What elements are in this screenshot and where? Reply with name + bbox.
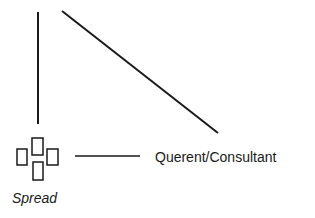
card-spread-icon <box>17 138 58 180</box>
diagonal-connector <box>62 11 218 133</box>
querent-label: Querent/Consultant <box>155 149 276 165</box>
card-left <box>17 149 27 165</box>
card-top <box>32 138 43 155</box>
spread-label: Spread <box>12 190 57 206</box>
card-right <box>47 149 58 165</box>
card-bottom <box>33 162 43 180</box>
diagram-canvas <box>0 0 315 218</box>
